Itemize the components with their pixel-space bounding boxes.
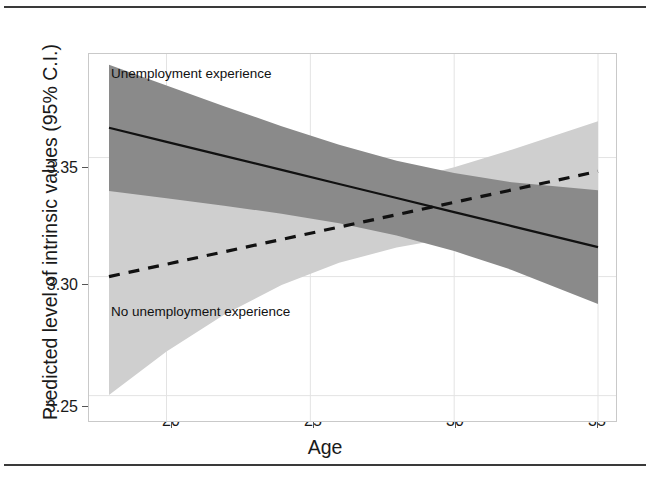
y-axis-label: Predicted level of intrinsic values (95%… [39,44,62,420]
y-tick-label-3-35: 3.35 [22,159,78,177]
x-axis-label: Age [0,436,650,459]
x-tick-mark-30 [455,422,456,428]
y-tick-label-3-25: 3.25 [22,398,78,416]
series-annotation-unemployment: Unemployment experience [111,66,272,81]
x-tick-mark-20 [171,422,172,428]
plot-panel: Unemployment experience No unemployment … [88,53,617,422]
y-tick-label-3-30: 3.30 [22,276,78,294]
series-annotation-no-unemployment: No unemployment experience [111,304,290,319]
y-axis-label-wrapper: Predicted level of intrinsic values (95%… [35,22,65,442]
chart-plot-area [89,54,617,422]
figure-container: Predicted level of intrinsic values (95%… [0,0,650,479]
x-tick-mark-25 [313,422,314,428]
x-tick-mark-35 [597,422,598,428]
top-divider-rule [4,6,646,8]
bottom-divider-rule [4,464,646,466]
